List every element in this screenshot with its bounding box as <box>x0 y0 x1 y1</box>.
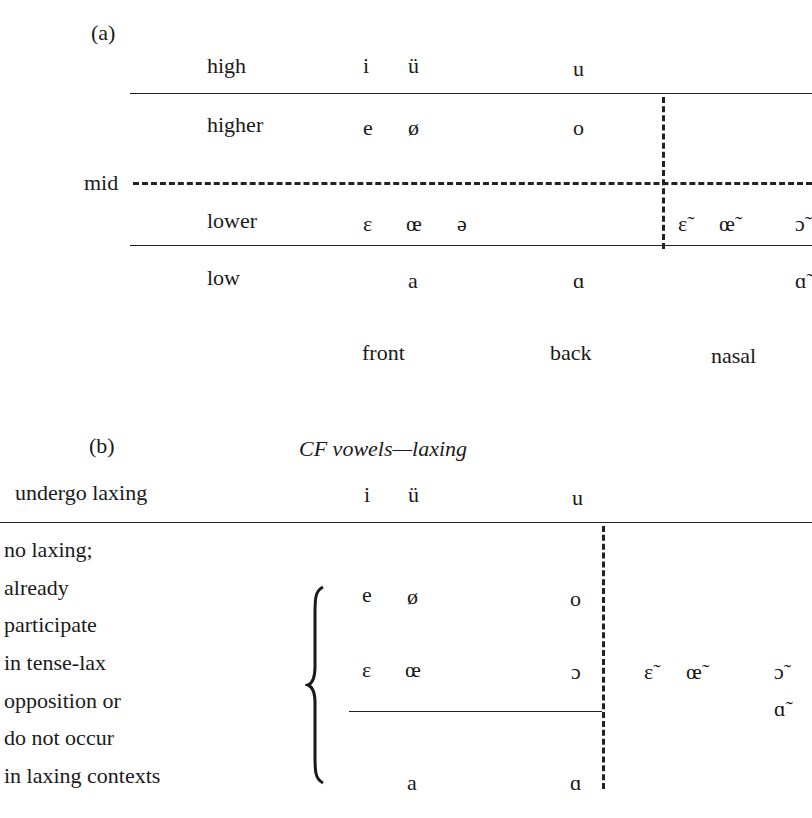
nasal-divider-dashed <box>602 526 605 789</box>
note-line: in tense-lax <box>4 652 106 674</box>
mid-label: mid <box>84 172 118 194</box>
column-label-back: back <box>550 342 592 364</box>
row-label-high: high <box>207 55 246 77</box>
divider-line <box>349 711 602 712</box>
vowel: u <box>572 487 583 509</box>
note-line: opposition or <box>4 690 121 712</box>
vowel: ɑ <box>570 772 582 794</box>
mid-dashed-line <box>133 182 812 185</box>
note-line: do not occur <box>4 727 114 749</box>
vowel: i <box>363 55 369 77</box>
row-label-low: low <box>207 267 240 289</box>
vowel: a <box>408 270 418 292</box>
vowel: œ <box>406 213 422 235</box>
vowel: ɔ̃ <box>795 213 805 235</box>
panel-b-title: CF vowels—laxing <box>299 438 467 460</box>
vowel: a <box>407 772 417 794</box>
vowel: ɑ̃ <box>774 698 786 720</box>
note-line: participate <box>4 614 97 636</box>
vowel: œ̃ <box>686 661 702 683</box>
vowel: ɛ̃ <box>644 661 653 683</box>
vowel: e <box>363 117 373 139</box>
vowel: ɛ <box>363 213 372 235</box>
vowel: ø <box>407 586 418 608</box>
vowel: ɔ̃ <box>774 661 784 683</box>
column-label-front: front <box>362 342 405 364</box>
vowel: ü <box>408 484 419 506</box>
divider-line <box>130 245 812 246</box>
vowel: ü <box>408 55 419 77</box>
vowel: o <box>570 588 581 610</box>
vowel: ɔ <box>571 661 581 683</box>
note-line: no laxing; <box>4 539 93 561</box>
curly-brace-icon <box>305 585 327 785</box>
vowel: ø <box>408 117 419 139</box>
undergo-laxing-label: undergo laxing <box>15 482 147 504</box>
vowel: ɛ <box>362 659 371 681</box>
row-label-higher: higher <box>207 114 263 136</box>
vowel: i <box>364 484 370 506</box>
vowel: ɑ <box>573 270 585 292</box>
vowel: o <box>573 117 584 139</box>
note-line: already <box>4 577 69 599</box>
panel-a-label: (a) <box>91 22 115 44</box>
vowel: œ <box>405 659 421 681</box>
divider-line <box>0 522 812 523</box>
column-label-nasal: nasal <box>711 345 756 367</box>
note-line: in laxing contexts <box>4 765 160 787</box>
vowel: e <box>362 584 372 606</box>
vowel: ə <box>457 213 467 235</box>
panel-b-label: (b) <box>89 435 115 457</box>
row-label-lower: lower <box>207 210 257 232</box>
vowel: ɛ̃ <box>678 213 687 235</box>
nasal-divider-dashed <box>662 97 665 249</box>
vowel: œ̃ <box>719 213 735 235</box>
vowel: ɑ̃ <box>795 270 807 292</box>
vowel: u <box>573 58 584 80</box>
divider-line <box>130 93 812 94</box>
